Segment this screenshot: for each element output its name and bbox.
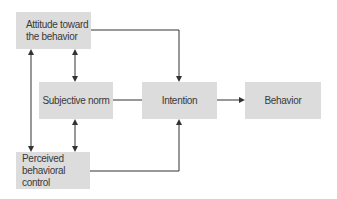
node-behavior-label: Behavior: [264, 95, 301, 107]
node-perceived-control: Perceived behavioral control: [16, 152, 90, 189]
node-perceived-control-label-line1: Perceived: [22, 153, 90, 165]
node-attitude-label-line1: Attitude toward: [26, 19, 88, 31]
node-intention-label: Intention: [162, 95, 198, 107]
edge-perceived-to-intention: [90, 125, 179, 171]
arrowhead-attitude-from-perceived: [28, 49, 34, 55]
arrowhead-attitude-from-norm: [72, 49, 78, 55]
node-intention: Intention: [142, 82, 217, 119]
node-subjective-norm: Subjective norm: [39, 82, 113, 119]
arrowhead-norm-from-perceived: [72, 119, 78, 125]
node-behavior: Behavior: [245, 82, 321, 119]
node-attitude: Attitude toward the behavior: [16, 12, 91, 49]
arrowhead-intention-bottom: [176, 119, 182, 125]
node-perceived-control-label-line2: behavioral control: [22, 165, 90, 189]
edge-attitude-to-intention: [91, 30, 179, 76]
node-subjective-norm-label: Subjective norm: [42, 95, 109, 107]
node-attitude-label-line2: the behavior: [26, 31, 88, 43]
